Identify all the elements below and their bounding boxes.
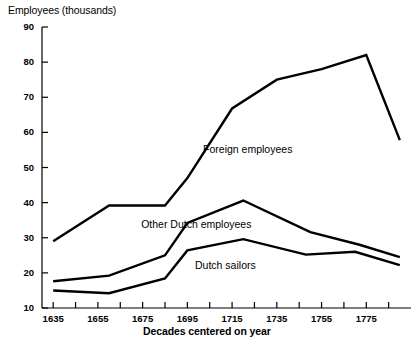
x-tick-label: 1775 — [346, 313, 386, 324]
x-tick-label: 1695 — [167, 313, 207, 324]
series-label-other-dutch-employees: Other Dutch employees — [141, 218, 251, 230]
y-tick-label: 90 — [12, 21, 34, 32]
plot-area — [0, 0, 416, 345]
series-label-foreign-employees: Foreign employees — [203, 143, 292, 155]
series-label-dutch-sailors: Dutch sailors — [195, 259, 256, 271]
x-tick-label: 1635 — [33, 313, 73, 324]
y-tick-label: 70 — [12, 91, 34, 102]
x-tick-label: 1655 — [78, 313, 118, 324]
y-tick-label: 60 — [12, 126, 34, 137]
y-tick-label: 40 — [12, 197, 34, 208]
y-tick-label: 80 — [12, 56, 34, 67]
y-tick-label: 30 — [12, 232, 34, 243]
y-tick-label: 50 — [12, 162, 34, 173]
y-tick-label: 20 — [12, 267, 34, 278]
x-tick-label: 1735 — [257, 313, 297, 324]
y-tick-label: 10 — [12, 302, 34, 313]
line-chart: Employees (thousands) Decades centered o… — [0, 0, 416, 345]
x-tick-label: 1755 — [302, 313, 342, 324]
x-tick-label: 1675 — [123, 313, 163, 324]
x-tick-label: 1715 — [212, 313, 252, 324]
